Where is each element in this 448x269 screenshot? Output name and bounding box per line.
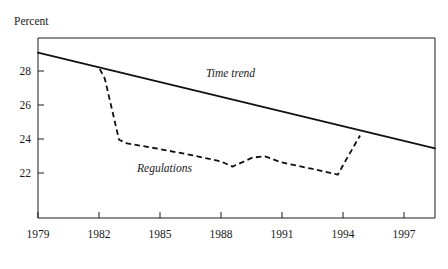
x-tick-label-1982: 1982 [88, 228, 111, 240]
y-tick-label-26: 26 [20, 99, 32, 111]
x-tick-label-1985: 1985 [149, 228, 172, 240]
chart-figure: 28 26 24 22 1979 1982 1985 1988 1991 199… [0, 0, 448, 269]
chart-canvas: 28 26 24 22 1979 1982 1985 1988 1991 199… [0, 0, 448, 269]
annotation-regulations: Regulations [136, 162, 192, 175]
x-axis-tick-labels: 1979 1982 1985 1988 1991 1994 1997 [27, 228, 416, 240]
x-tick-label-1994: 1994 [332, 228, 355, 240]
y-axis-label: Percent [14, 15, 49, 27]
y-tick-label-22: 22 [20, 167, 32, 179]
x-tick-label-1997: 1997 [393, 228, 416, 240]
x-tick-label-1988: 1988 [210, 228, 233, 240]
x-tick-label-1979: 1979 [27, 228, 50, 240]
x-tick-label-1991: 1991 [271, 228, 294, 240]
y-tick-label-28: 28 [20, 65, 32, 77]
x-axis-ticks [38, 212, 404, 218]
y-axis-ticks [38, 71, 44, 173]
annotation-time-trend: Time trend [206, 67, 255, 79]
plot-frame-rect [38, 38, 435, 218]
y-axis-tick-labels: 28 26 24 22 [20, 65, 32, 179]
plot-frame [38, 38, 435, 218]
series-line-regulations [100, 69, 360, 175]
y-tick-label-24: 24 [20, 133, 32, 145]
